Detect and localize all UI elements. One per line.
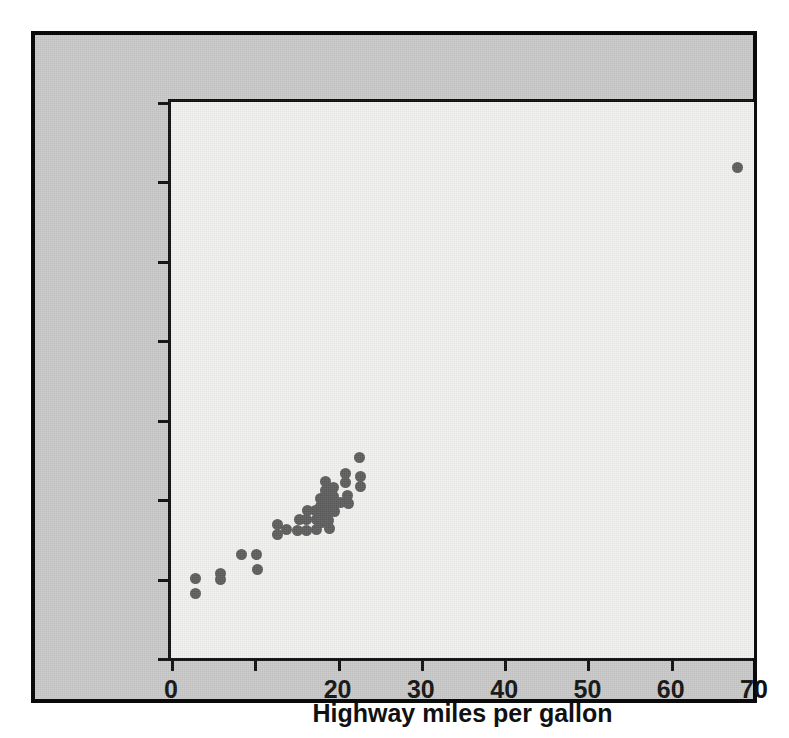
y-axis-tick (158, 261, 171, 264)
data-point (252, 564, 263, 575)
x-axis-tick (754, 658, 757, 671)
y-axis-tick (158, 181, 171, 184)
data-point (251, 549, 262, 560)
x-axis-tick (338, 658, 341, 671)
y-axis-tick (158, 579, 171, 582)
y-axis-tick (158, 420, 171, 423)
data-point (340, 477, 351, 488)
x-axis-tick (587, 658, 590, 671)
data-point (236, 549, 247, 560)
x-axis-tick (254, 658, 257, 671)
y-axis-tick (158, 340, 171, 343)
y-axis-tick (158, 658, 171, 661)
data-point (215, 574, 226, 585)
data-point (355, 481, 366, 492)
x-axis-tick (171, 658, 174, 671)
data-point (732, 162, 743, 173)
scatter-plot-figure: City miles per gallon 010203040506070020… (0, 0, 789, 738)
data-point (324, 523, 335, 534)
data-point (190, 588, 201, 599)
chart-panel: City miles per gallon 010203040506070020… (31, 31, 757, 703)
plot-area: 0102030405060700203040506070 (168, 99, 757, 661)
data-point (329, 506, 340, 517)
data-point (190, 573, 201, 584)
x-axis-title: Highway miles per gallon (168, 699, 757, 728)
data-point (354, 452, 365, 463)
x-axis-tick (671, 658, 674, 671)
plot-data-layer (171, 102, 754, 658)
data-point (343, 498, 354, 509)
x-axis-tick (504, 658, 507, 671)
x-axis-tick (421, 658, 424, 671)
y-axis-tick (158, 102, 171, 105)
data-point (281, 524, 292, 535)
y-axis-tick (158, 499, 171, 502)
